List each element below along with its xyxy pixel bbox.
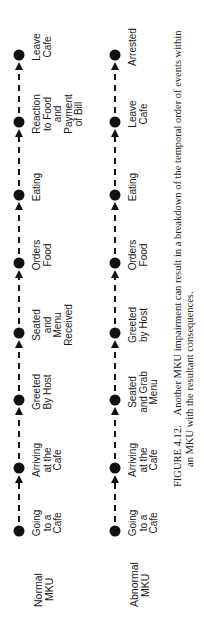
event-node	[14, 328, 25, 339]
event-label-line: Eating	[32, 157, 43, 217]
figure-number: FIGURE 4.12.	[172, 425, 183, 487]
figure-caption: FIGURE 4.12.Another MKU impairment can r…	[172, 7, 196, 487]
event-label-line: Greeted	[128, 295, 139, 355]
event-node	[14, 526, 25, 537]
event-label-line: Cafe	[149, 493, 160, 553]
event-node	[14, 50, 25, 61]
event-label: SeatedandMenuReceived	[32, 295, 74, 355]
arrow-connector	[109, 62, 121, 115]
arrow-connector	[13, 407, 25, 461]
event-label: Reactionto FoodandPaymentof Bill	[32, 84, 85, 144]
arrow-connector	[13, 270, 25, 326]
arrowhead-icon	[111, 129, 119, 137]
event-label-line: Leave	[32, 17, 43, 77]
event-node	[110, 526, 121, 537]
arrowhead-icon	[15, 340, 23, 348]
arrowhead-icon	[111, 202, 119, 210]
arrowhead-icon	[15, 407, 23, 415]
event-label-line: Arriving	[32, 430, 43, 490]
figure-diagram: NormalMKUGoingto aCafeArrivingat theCafe…	[0, 0, 204, 637]
event-label-line: Food	[43, 225, 54, 285]
caption-line-1: Another MKU impairment can result in a b…	[172, 31, 183, 416]
event-label-line: Received	[64, 295, 75, 355]
event-node	[110, 395, 121, 406]
event-label: Goingto aCafe	[128, 493, 160, 553]
event-label: Arrivingat theCafe	[32, 430, 64, 490]
event-label-line: Eating	[128, 157, 139, 217]
arrowhead-icon	[111, 475, 119, 483]
event-label: Greetedby Host	[128, 295, 149, 355]
event-label: GreetedBy Host	[32, 362, 53, 422]
event-label-line: Orders	[128, 225, 139, 285]
event-node	[110, 328, 121, 339]
event-node	[14, 190, 25, 201]
event-label: Eating	[32, 157, 43, 217]
event-label: Arrested	[128, 17, 139, 77]
row-label: AbnormalMKU	[129, 562, 151, 607]
arrow-connector	[13, 475, 25, 524]
event-label-line: Arriving	[128, 430, 139, 490]
arrowhead-icon	[111, 62, 119, 70]
arrowhead-icon	[15, 475, 23, 483]
event-label: LeaveCafe	[128, 84, 149, 144]
arrowhead-icon	[15, 62, 23, 70]
event-label-line: Menu	[149, 362, 160, 422]
event-label-line: Food	[139, 225, 150, 285]
event-node	[14, 117, 25, 128]
event-label-line: Cafe	[53, 493, 64, 553]
event-node	[110, 258, 121, 269]
event-node	[110, 117, 121, 128]
event-node	[14, 258, 25, 269]
row-label: NormalMKU	[33, 573, 55, 607]
event-label: OrdersFood	[128, 225, 149, 285]
event-label-line: Arrested	[128, 17, 139, 77]
arrowhead-icon	[111, 407, 119, 415]
event-label: Eating	[128, 157, 139, 217]
event-label-line: by Host	[139, 295, 150, 355]
event-label-line: Going	[128, 493, 139, 553]
event-label-line: Cafe	[139, 84, 150, 144]
caption-line-2: an MKU with the resultant consequences.	[184, 7, 196, 487]
event-label: LeaveCafe	[32, 17, 53, 77]
event-label-line: Orders	[32, 225, 43, 285]
event-label-line: Menu	[53, 295, 64, 355]
arrow-connector	[109, 407, 121, 461]
arrow-connector	[109, 270, 121, 326]
arrow-connector	[109, 340, 121, 393]
arrowhead-icon	[15, 270, 23, 278]
event-label-line: Cafe	[149, 430, 160, 490]
event-label-line: Going	[32, 493, 43, 553]
arrowhead-icon	[15, 129, 23, 137]
event-label-line: and	[53, 84, 64, 144]
event-label-line: Cafe	[53, 430, 64, 490]
arrow-connector	[13, 202, 25, 256]
event-label: OrdersFood	[32, 225, 53, 285]
event-node	[110, 463, 121, 474]
event-label-line: Cafe	[43, 17, 54, 77]
event-node	[110, 190, 121, 201]
arrow-connector	[109, 202, 121, 256]
arrow-connector	[109, 129, 121, 188]
arrow-connector	[13, 129, 25, 188]
event-label-line: Seated	[128, 362, 139, 422]
event-label: Arrivingat theCafe	[128, 430, 160, 490]
row-label-line: MKU	[44, 573, 55, 607]
event-label: Seatedand GrabMenu	[128, 362, 160, 422]
event-node	[14, 395, 25, 406]
arrow-connector	[13, 340, 25, 393]
row-label-line: MKU	[140, 562, 151, 607]
arrow-connector	[13, 62, 25, 115]
event-node	[110, 50, 121, 61]
event-label-line: of Bill	[74, 84, 85, 144]
arrow-connector	[109, 475, 121, 524]
event-label-line: Greeted	[32, 362, 43, 422]
arrowhead-icon	[15, 202, 23, 210]
event-label-line: Reaction	[32, 84, 43, 144]
event-label: Goingto aCafe	[32, 493, 64, 553]
event-label-line: By Host	[43, 362, 54, 422]
arrowhead-icon	[111, 270, 119, 278]
event-label-line: Seated	[32, 295, 43, 355]
event-label-line: Leave	[128, 84, 139, 144]
arrowhead-icon	[111, 340, 119, 348]
event-node	[14, 463, 25, 474]
